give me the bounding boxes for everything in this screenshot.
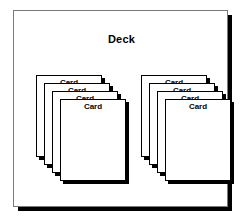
- deck-container: Deck Card Card Card Card Card Card: [13, 10, 228, 207]
- left-card-stack: Card Card Card Card: [36, 75, 132, 185]
- right-card-stack: Card Card Card Card: [141, 75, 237, 185]
- card-box[interactable]: Card: [60, 99, 126, 181]
- card-label: Card: [166, 102, 230, 112]
- deck-title: Deck: [14, 33, 229, 45]
- card-box[interactable]: Card: [165, 99, 231, 181]
- card-label: Card: [61, 102, 125, 112]
